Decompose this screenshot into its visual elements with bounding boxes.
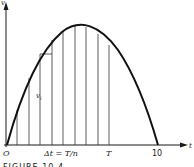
figure-caption: FIGURE 10.4 [3, 163, 64, 167]
velocity-curve [7, 25, 158, 145]
end-label: 10 [152, 149, 162, 158]
y-axis-label: v [1, 0, 5, 7]
interval-label: Δt = T/n [43, 149, 78, 158]
velocity-time-diagram: v t O Δt = T/n T 10 vi FIGURE 10.4 [0, 0, 194, 167]
T-label: T [106, 149, 112, 158]
x-axis-arrow-icon [180, 143, 188, 148]
x-axis-label: t [189, 142, 192, 150]
origin-label: O [3, 149, 10, 158]
strip-lines [17, 26, 109, 145]
height-label: vi [36, 92, 42, 101]
